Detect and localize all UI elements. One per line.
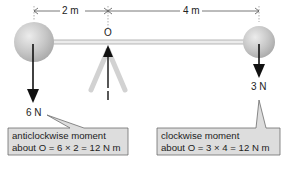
right-callout-line1: clockwise moment bbox=[161, 130, 239, 142]
right-force-label: 3 N bbox=[251, 82, 267, 92]
pivot-label: O bbox=[104, 28, 112, 38]
left-distance-label: 2 m bbox=[62, 6, 79, 16]
left-force-label: 6 N bbox=[26, 108, 42, 118]
left-mass bbox=[14, 22, 54, 62]
left-callout-line1: anticlockwise moment bbox=[12, 130, 106, 142]
left-callout-line2: about O = 6 × 2 = 12 N m bbox=[12, 142, 121, 154]
beam bbox=[50, 40, 255, 44]
cropped-caption-fragment bbox=[0, 167, 287, 174]
right-callout-line2: about O = 3 × 4 = 12 N m bbox=[161, 142, 270, 154]
right-distance-label: 4 m bbox=[183, 6, 200, 16]
